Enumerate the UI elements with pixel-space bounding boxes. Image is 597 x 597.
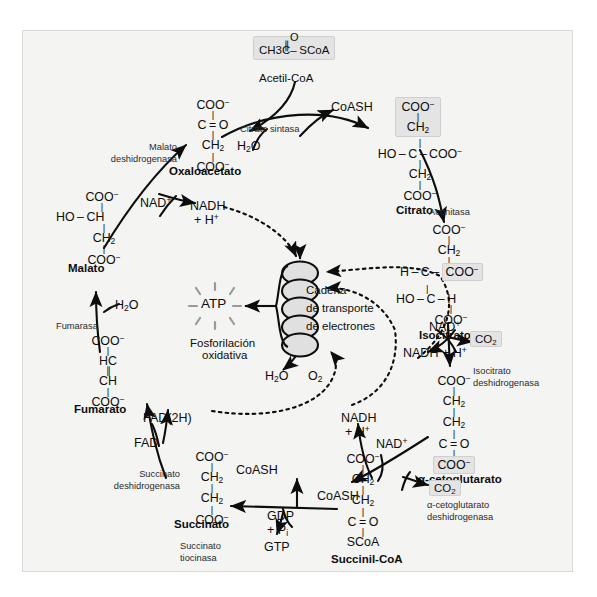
enzyme-aconitasa: Aconitasa — [429, 207, 470, 217]
isocitrato-line-3: HO – C – H — [396, 292, 456, 306]
oxphos-l2: oxidativa — [202, 349, 247, 361]
fad2h-label: FAD(2H) — [143, 412, 192, 426]
atp-label: ATP — [201, 297, 226, 312]
succinato-tiocinasa-l1: Succinato — [180, 541, 221, 551]
cetoglutarato-deshidrogenasa-l2: deshidrogenasa — [427, 512, 493, 522]
nadh-malato-label: NADH + H+ — [190, 200, 225, 228]
h2o-fumarasa-label: H2O — [115, 299, 139, 313]
succinato-deshidrogenasa-l1: Succinato — [139, 469, 180, 479]
citrato-line-4: COO− — [403, 189, 436, 203]
co2-cetoglutarato-label: CO2 — [429, 482, 461, 496]
coash-succinato-label: CoASH — [236, 464, 278, 478]
coash-cetoglutarato-label: CoASH — [317, 490, 359, 504]
co2-isocitrato-label: CO2 — [470, 333, 502, 347]
fad-label: FAD — [134, 437, 158, 451]
succinato-structure: COO−| CH2| CH2| COO− — [186, 450, 238, 527]
succinato-tiocinasa-l2: tiocinasa — [180, 553, 217, 563]
malato-bottom: | CH2| COO− — [78, 224, 130, 266]
isocitrato-deshidrogenasa-l2: deshidrogenasa — [473, 378, 539, 388]
malato-deshidrogenasa-l2: deshidrogenasa — [111, 154, 177, 164]
malato-line-1: HO – CH — [56, 210, 104, 224]
malato-label: Malato — [68, 262, 104, 274]
cetoglutarato-deshidrogenasa-l1: α-cetoglutarato — [427, 500, 489, 510]
nad-isocitrato-label: NAD+ — [429, 320, 460, 334]
gdp-label: GDP + Pi — [267, 510, 294, 538]
malato-mid: HO – CH — [56, 211, 146, 223]
isocitrato-lower: | HO – C – H — [396, 285, 486, 305]
enzyme-isocitrato-deshidrogenasa: Isocitrato deshidrogenasa — [473, 366, 539, 389]
isocitrato-deshidrogenasa-l1: Isocitrato — [473, 366, 511, 376]
enzyme-succinato-deshidrogenasa: Succinato deshidrogenasa — [95, 469, 180, 492]
nadh-malato-l1: NADH — [190, 199, 225, 213]
gtp-label: GTP — [264, 541, 290, 555]
citrato-upper-highlight: COO−| CH2 — [388, 97, 448, 137]
acetil-coa-oxygen: O — [290, 32, 299, 44]
enzyme-malato-deshidrogenasa: Malato deshidrogenasa — [91, 142, 177, 165]
etc-h2o-label: H2O — [265, 370, 289, 384]
acetil-coa-label: Acetil-CoA — [259, 72, 313, 84]
isocitrato-mid: H – C – COO− — [400, 265, 500, 278]
enzyme-citrato-sintasa: Citrato sintasa — [240, 124, 299, 134]
isocitrato-line-2: H – C – COO− — [400, 263, 483, 281]
coash-top-label: CoASH — [331, 101, 373, 115]
citrato-structure: | HO – C – COO−| CH2| COO− — [365, 139, 475, 202]
h2o-citrato-label: H2O — [237, 140, 261, 154]
etc-o2-label: O2 — [308, 370, 322, 384]
succinato-deshidrogenasa-l2: deshidrogenasa — [114, 481, 180, 491]
oxaloacetato-label: Oxaloacetato — [169, 165, 241, 177]
malato-deshidrogenasa-l1: Malato — [149, 142, 177, 152]
nad-cetoglutarato-label: NAD+ — [376, 437, 407, 451]
enzyme-cetoglutarato-deshidrogenasa: α-cetoglutarato deshidrogenasa — [427, 500, 493, 523]
succinil-coa-label: Succinil-CoA — [331, 553, 403, 565]
fumarato-label: Fumarato — [74, 403, 126, 415]
oxphos-l1: Fosforilación — [190, 337, 255, 349]
acetil-coa-formula-tail: SCoA — [299, 44, 329, 56]
enzyme-fumarasa: Fumarasa — [56, 321, 98, 331]
malato-top: COO−| — [76, 190, 128, 211]
enzyme-succinato-tiocinasa: Succinato tiocinasa — [180, 541, 221, 564]
krebs-cycle-diagram: O ∥ CH3C–SCoA Acetil-CoA COO−| C = O| CH… — [0, 0, 597, 597]
nadh-cetoglutarato-l1: NADH — [341, 411, 376, 425]
nadh-isocitrato-label: NADH + H+ — [403, 346, 467, 360]
succinato-label: Succinato — [174, 518, 229, 530]
nadh-malato-l2: + H+ — [194, 213, 219, 227]
etc-chain-l3: de electrones — [306, 320, 375, 332]
etc-chain-l2: de transporte — [306, 302, 374, 314]
citrato-label: Citrato — [396, 204, 433, 216]
nadh-cetoglutarato-label: NADH + H+ — [341, 412, 376, 440]
isocitrato-top: COO−| CH2| — [424, 223, 474, 265]
oxaloacetato-structure: COO−| C = O| CH2| COO− — [183, 98, 243, 174]
cetoglutarato-line-4: COO− — [433, 456, 474, 474]
oxphos-label: Fosforilación oxidativa — [190, 337, 255, 362]
citrato-line-1: CH2 — [407, 120, 430, 134]
nad-malato-label: NAD+ — [140, 196, 171, 210]
gdp-l2: + Pi — [267, 523, 288, 537]
acetil-coa-structure: O ∥ CH3C–SCoA — [253, 36, 335, 60]
fumarato-structure: COO−| HC∥ CH| COO− — [82, 334, 134, 409]
nadh-cetoglutarato-l2: + H+ — [345, 425, 370, 439]
etc-chain-l1: Cadena — [306, 284, 346, 296]
diagram-artwork — [0, 0, 597, 597]
gdp-l1: GDP — [267, 509, 294, 523]
succinil-coa-line-4: SCoA — [347, 535, 379, 549]
